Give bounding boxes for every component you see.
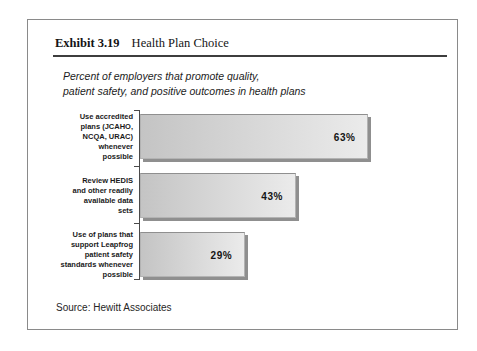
axis-tick xyxy=(134,223,139,224)
bar: 63% xyxy=(140,114,368,159)
exhibit-box: Exhibit 3.19Health Plan Choice Percent o… xyxy=(27,19,458,330)
axis-tick xyxy=(134,166,139,167)
bar: 43% xyxy=(140,173,296,218)
axis-tick xyxy=(134,279,139,280)
bar-value-label: 43% xyxy=(261,190,283,201)
header-rule xyxy=(53,55,447,57)
chart-row: Use of plans that support Leapfrog patie… xyxy=(41,232,459,277)
bar-label: Review HEDIS and other readily available… xyxy=(41,176,140,216)
exhibit-title: Health Plan Choice xyxy=(132,36,229,50)
bar-value-label: 63% xyxy=(334,131,356,142)
bar-label: Use accredited plans (JCAHO, NCQA, URAC)… xyxy=(41,112,140,162)
bar-area: 63% xyxy=(140,114,459,159)
chart-row: Use accredited plans (JCAHO, NCQA, URAC)… xyxy=(41,114,459,159)
exhibit-number: Exhibit 3.19 xyxy=(55,36,120,50)
bar-label: Use of plans that support Leapfrog patie… xyxy=(41,230,140,280)
page: Exhibit 3.19Health Plan Choice Percent o… xyxy=(0,0,477,351)
chart-subtitle: Percent of employers that promote qualit… xyxy=(63,69,306,99)
bar: 29% xyxy=(140,232,245,277)
bar-value-label: 29% xyxy=(211,249,233,260)
axis-tick xyxy=(134,110,139,111)
source-note: Source: Hewitt Associates xyxy=(56,302,172,313)
bar-area: 43% xyxy=(140,173,459,218)
chart-row: Review HEDIS and other readily available… xyxy=(41,173,459,218)
exhibit-header: Exhibit 3.19Health Plan Choice xyxy=(55,36,229,51)
bar-area: 29% xyxy=(140,232,459,277)
bar-chart: Use accredited plans (JCAHO, NCQA, URAC)… xyxy=(41,108,459,291)
y-axis xyxy=(139,110,140,280)
